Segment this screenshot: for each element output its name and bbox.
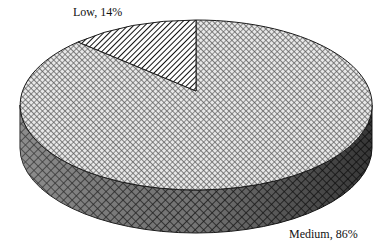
data-label-medium: Medium, 86%: [289, 227, 358, 242]
pie-chart: [0, 0, 388, 252]
data-label-low: Low, 14%: [73, 5, 122, 20]
